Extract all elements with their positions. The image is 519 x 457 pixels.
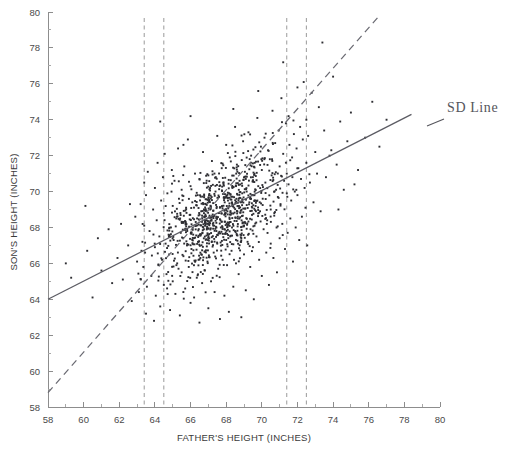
data-point <box>260 146 262 148</box>
x-tick-label: 72 <box>292 414 303 425</box>
data-point <box>229 230 231 232</box>
data-point <box>187 260 189 262</box>
data-point <box>192 255 194 257</box>
data-point <box>206 226 208 228</box>
x-tick-label: 78 <box>399 414 410 425</box>
data-point <box>157 280 159 282</box>
data-point <box>205 175 207 177</box>
data-point <box>147 171 149 173</box>
data-point <box>221 231 223 233</box>
data-point <box>232 243 234 245</box>
data-point <box>234 155 236 157</box>
data-point <box>279 165 281 167</box>
data-point <box>201 254 203 256</box>
data-point <box>214 256 216 258</box>
data-point <box>92 297 94 299</box>
data-point <box>214 195 216 197</box>
data-point <box>187 139 189 141</box>
data-point <box>225 215 227 217</box>
data-point <box>238 260 240 262</box>
data-point <box>184 288 186 290</box>
data-point <box>238 247 240 249</box>
data-point <box>177 252 179 254</box>
data-point <box>254 188 256 190</box>
data-point <box>261 184 263 186</box>
data-point <box>242 211 244 213</box>
x-tick-label: 76 <box>363 414 374 425</box>
data-point <box>251 250 253 252</box>
data-point <box>234 151 236 153</box>
data-point <box>227 226 229 228</box>
data-point <box>246 224 248 226</box>
data-point <box>237 205 239 207</box>
data-point <box>186 212 188 214</box>
data-point <box>185 240 187 242</box>
data-point <box>196 192 198 194</box>
data-point <box>207 237 209 239</box>
data-point <box>268 170 270 172</box>
data-point <box>213 252 215 254</box>
data-point <box>205 182 207 184</box>
data-point <box>214 241 216 243</box>
data-point <box>251 207 253 209</box>
data-point <box>201 282 203 284</box>
data-point <box>212 225 214 227</box>
data-point <box>291 156 293 158</box>
data-point <box>201 249 203 251</box>
data-point <box>284 208 286 210</box>
data-point <box>288 183 290 185</box>
data-point <box>254 173 256 175</box>
data-point <box>152 234 154 236</box>
data-point <box>212 222 214 224</box>
data-point <box>281 223 283 225</box>
data-point <box>131 300 133 302</box>
data-point <box>197 236 199 238</box>
data-point <box>197 264 199 266</box>
data-point <box>230 210 232 212</box>
data-point <box>244 208 246 210</box>
data-point <box>249 158 251 160</box>
data-point <box>195 221 197 223</box>
data-point <box>175 264 177 266</box>
data-point <box>244 237 246 239</box>
data-point <box>249 133 251 135</box>
data-point <box>252 204 254 206</box>
data-point <box>97 237 99 239</box>
data-point <box>86 250 88 252</box>
data-point <box>182 174 184 176</box>
data-point <box>205 239 207 241</box>
data-point <box>242 140 244 142</box>
data-point <box>212 277 214 279</box>
data-point <box>199 214 201 216</box>
y-tick-label: 62 <box>29 330 40 341</box>
data-point <box>190 207 192 209</box>
data-point <box>269 247 271 249</box>
data-point <box>215 236 217 238</box>
data-point <box>339 121 341 123</box>
x-tick-label: 66 <box>185 414 196 425</box>
data-point <box>227 234 229 236</box>
data-point <box>221 206 223 208</box>
data-point <box>181 194 183 196</box>
data-point <box>234 208 236 210</box>
data-point <box>243 234 245 236</box>
data-point <box>239 212 241 214</box>
data-point <box>202 202 204 204</box>
data-point <box>247 221 249 223</box>
data-point <box>257 161 259 163</box>
data-point <box>265 192 267 194</box>
data-point <box>166 287 168 289</box>
data-point <box>252 233 254 235</box>
y-tick-label: 76 <box>29 78 40 89</box>
data-point <box>199 179 201 181</box>
data-point <box>231 212 233 214</box>
data-point <box>220 162 222 164</box>
data-point <box>239 180 241 182</box>
data-point <box>273 201 275 203</box>
data-point <box>386 119 388 121</box>
data-point <box>248 203 250 205</box>
data-point <box>290 200 292 202</box>
data-point <box>196 243 198 245</box>
data-point <box>225 239 227 241</box>
data-point <box>242 152 244 154</box>
